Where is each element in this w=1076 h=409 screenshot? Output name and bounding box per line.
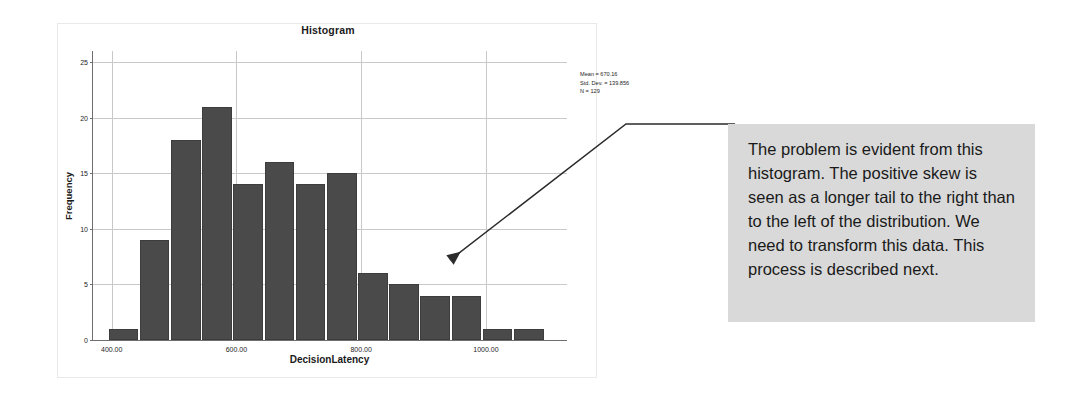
y-tick-mark [90,118,93,119]
x-tick-label: 800.00 [350,346,371,353]
y-tick-label: 15 [80,170,88,177]
callout-text: The problem is evident from this histogr… [748,138,1017,282]
histogram-bar [171,140,201,340]
y-tick-mark [90,284,93,285]
histogram-bar [420,296,450,340]
y-tick-label: 10 [80,225,88,232]
x-tick-label: 600.00 [226,346,247,353]
y-tick-mark [90,340,93,341]
y-tick-mark [90,62,93,63]
callout-box: The problem is evident from this histogr… [728,124,1035,322]
x-tick-label: 1000.00 [473,346,498,353]
y-tick-label: 0 [84,337,88,344]
y-tick-label: 20 [80,114,88,121]
chart-title: Histogram [58,24,598,36]
histogram-bar [514,329,544,340]
y-tick-mark [90,229,93,230]
histogram-bar [109,329,139,340]
histogram-bar [483,329,513,340]
y-tick-mark [90,173,93,174]
histogram-bar [452,296,482,340]
statistics-annotation: Mean = 670.16 Std. Dev. = 139.856 N = 12… [580,70,629,96]
histogram-bar [140,240,170,340]
y-tick-label: 5 [84,281,88,288]
histogram-bar [327,173,357,340]
stat-mean: Mean = 670.16 [580,70,629,79]
x-tick-label: 400.00 [101,346,122,353]
stat-n: N = 129 [580,87,629,96]
gridline-vertical [112,51,113,340]
x-axis-title: DecisionLatency [92,354,567,365]
callout-arrow-icon [430,108,750,278]
y-axis-title: Frequency [63,172,74,220]
y-tick-label: 25 [80,59,88,66]
histogram-bar [233,184,263,340]
gridline-horizontal [93,62,567,63]
histogram-bar [265,162,295,340]
histogram-bar [389,284,419,340]
histogram-bar [296,184,326,340]
histogram-bar [202,107,232,340]
histogram-bar [358,273,388,340]
stat-std-dev: Std. Dev. = 139.856 [580,79,629,88]
